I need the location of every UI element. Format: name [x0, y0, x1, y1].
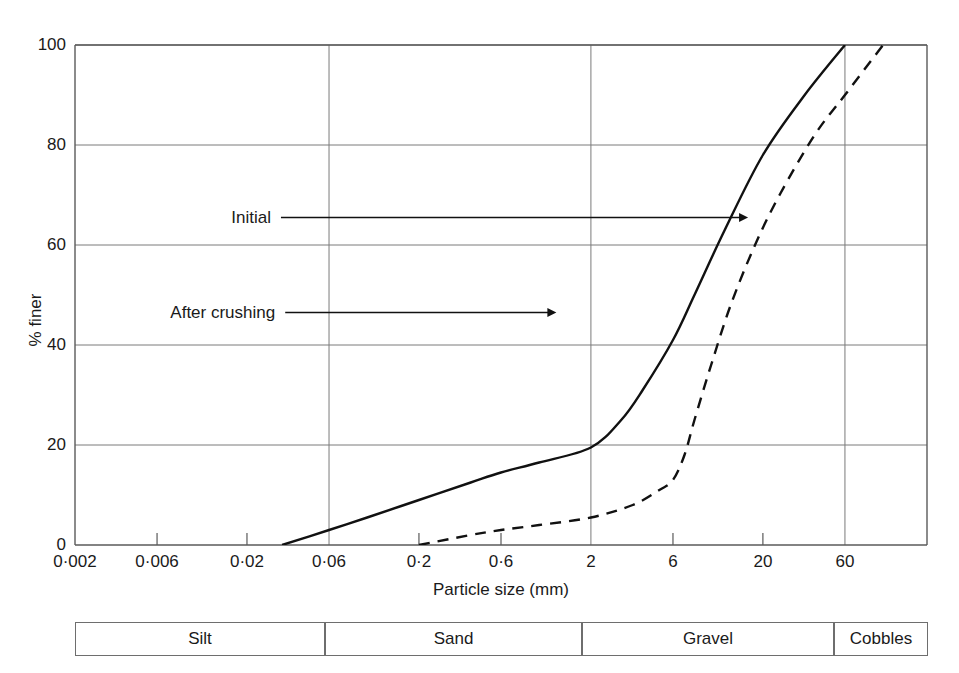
- x-tick-label: 2: [586, 552, 595, 572]
- tick-marks: [157, 533, 763, 545]
- classification-cell-cobbles: Cobbles: [834, 622, 928, 656]
- annotation-label-after-crushing: After crushing: [170, 303, 275, 323]
- x-tick-label: 0·006: [135, 552, 178, 572]
- y-tick-label: 100: [18, 35, 66, 55]
- annotation-arrows: [281, 213, 748, 317]
- x-tick-label: 0·002: [53, 552, 96, 572]
- curve-initial: [419, 45, 883, 545]
- y-tick-label: 80: [18, 135, 66, 155]
- x-tick-label: 0·02: [230, 552, 264, 572]
- x-tick-label: 6: [668, 552, 677, 572]
- classification-cell-gravel: Gravel: [582, 622, 834, 656]
- curve-after-crushing: [282, 45, 845, 545]
- y-tick-label: 20: [18, 435, 66, 455]
- grading-curve-figure: 020406080100 0·0020·0060·020·060·20·6262…: [0, 0, 959, 673]
- x-tick-label: 60: [835, 552, 854, 572]
- x-tick-label: 0·06: [312, 552, 346, 572]
- gridlines: [75, 45, 927, 545]
- plot-axes: [75, 45, 927, 545]
- y-tick-label: 60: [18, 235, 66, 255]
- x-tick-label: 0·6: [489, 552, 514, 572]
- data-curves: [282, 45, 883, 545]
- annotation-arrowhead: [547, 308, 556, 317]
- classification-cell-silt: Silt: [75, 622, 325, 656]
- annotation-arrowhead: [739, 213, 748, 222]
- plot-canvas: [0, 0, 959, 673]
- x-axis-title: Particle size (mm): [433, 580, 569, 600]
- classification-cell-sand: Sand: [325, 622, 582, 656]
- x-tick-label: 20: [753, 552, 772, 572]
- y-axis-title: % finer: [26, 294, 46, 347]
- annotation-label-initial: Initial: [231, 208, 271, 228]
- x-tick-label: 0·2: [407, 552, 432, 572]
